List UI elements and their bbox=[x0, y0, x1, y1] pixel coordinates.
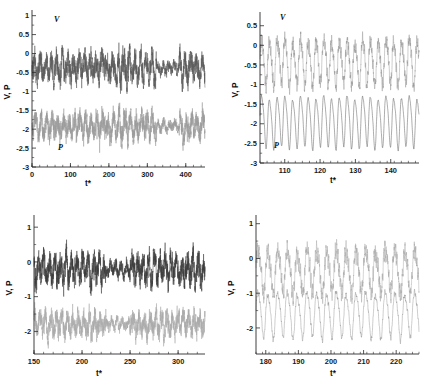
y-tick-label: -2 bbox=[24, 327, 31, 336]
y-tick-label: 1 bbox=[27, 223, 31, 232]
x-tick-label: 140 bbox=[385, 166, 397, 175]
x-tick-label: 130 bbox=[349, 166, 361, 175]
y-tick-label: 1 bbox=[249, 219, 253, 228]
traces-bottom-left bbox=[34, 240, 205, 349]
x-axis-title: t* bbox=[96, 369, 103, 378]
y-tick-label: -0.5 bbox=[16, 68, 29, 77]
y-tick-label: -3 bbox=[22, 163, 29, 172]
x-tick-label: 400 bbox=[180, 170, 192, 179]
y-tick-label: -2.5 bbox=[16, 144, 29, 153]
y-tick-label: 0.5 bbox=[19, 30, 29, 39]
y-tick-label: -2 bbox=[22, 125, 29, 134]
chart-bottom-right: 10-1-2 180190200210220 t* V, P bbox=[212, 193, 424, 385]
curve-label-v: V bbox=[54, 15, 60, 24]
y-tick-label: -3 bbox=[250, 159, 257, 168]
x-tick-label: 210 bbox=[357, 357, 369, 366]
panel-top-right: 0.50-0.5-1-1.5-2-2.5-3 110120130140 t* V… bbox=[212, 0, 424, 193]
figure-root: 10.50-0.5-1-1.5-2-2.5-3 0100200300400 t*… bbox=[0, 0, 424, 385]
traces-bottom-right bbox=[256, 239, 419, 344]
traces-top-right bbox=[260, 32, 419, 151]
trace-v bbox=[260, 32, 419, 95]
traces-top-left bbox=[32, 43, 205, 153]
panel-bottom-left: 10-1-2 150200250300 t* V, P bbox=[0, 193, 212, 385]
curve-label-p: P bbox=[58, 143, 63, 152]
x-tick-label: 120 bbox=[314, 166, 326, 175]
x-tick-label: 150 bbox=[28, 357, 40, 366]
y-axis-title: V, P bbox=[3, 84, 12, 99]
y-tick-label: 0 bbox=[253, 41, 257, 50]
curve-label-v: V bbox=[280, 13, 286, 22]
x-tick-label: 0 bbox=[30, 170, 34, 179]
panel-top-left: 10.50-0.5-1-1.5-2-2.5-3 0100200300400 t*… bbox=[0, 0, 212, 193]
curve-label-p: P bbox=[274, 141, 279, 150]
x-tick-label: 300 bbox=[172, 357, 184, 366]
y-tick-label: -2 bbox=[246, 324, 253, 333]
y-tick-label: -2 bbox=[250, 119, 257, 128]
y-tick-label: -1 bbox=[22, 87, 29, 96]
x-tick-label: 200 bbox=[325, 357, 337, 366]
axes-bottom-right: 10-1-2 180190200210220 bbox=[246, 215, 419, 366]
x-axis-title: t* bbox=[85, 179, 92, 188]
y-tick-label: 0 bbox=[27, 258, 31, 267]
x-tick-label: 300 bbox=[141, 170, 153, 179]
y-tick-label: -0.5 bbox=[244, 61, 257, 70]
x-axis-title: t* bbox=[330, 176, 337, 185]
y-tick-label: 1 bbox=[25, 11, 29, 20]
y-tick-label: -1.5 bbox=[16, 106, 29, 115]
x-tick-label: 220 bbox=[390, 357, 402, 366]
x-tick-label: 110 bbox=[279, 166, 291, 175]
x-tick-label: 190 bbox=[292, 357, 304, 366]
y-tick-label: -1 bbox=[250, 80, 257, 89]
y-tick-label: -1.5 bbox=[244, 100, 257, 109]
y-tick-label: -1 bbox=[246, 289, 253, 298]
y-tick-label: 0.5 bbox=[247, 21, 257, 30]
trace-v bbox=[32, 43, 205, 94]
x-tick-label: 180 bbox=[260, 357, 272, 366]
panel-bottom-right: 10-1-2 180190200210220 t* V, P bbox=[212, 193, 424, 385]
y-tick-label: 0 bbox=[249, 254, 253, 263]
trace-p bbox=[256, 289, 419, 344]
chart-bottom-left: 10-1-2 150200250300 t* V, P bbox=[0, 193, 212, 385]
x-tick-label: 250 bbox=[124, 357, 136, 366]
chart-top-right: 0.50-0.5-1-1.5-2-2.5-3 110120130140 t* V… bbox=[212, 0, 424, 193]
x-tick-label: 200 bbox=[103, 170, 115, 179]
x-tick-label: 100 bbox=[64, 170, 76, 179]
y-axis-title: V, P bbox=[227, 280, 236, 295]
y-tick-label: -1 bbox=[24, 292, 31, 301]
y-tick-label: 0 bbox=[25, 49, 29, 58]
axes-top-left: 10.50-0.5-1-1.5-2-2.5-3 0100200300400 bbox=[16, 10, 205, 179]
y-axis-title: V, P bbox=[231, 82, 240, 97]
axes-bottom-left: 10-1-2 150200250300 bbox=[24, 215, 205, 366]
x-tick-label: 200 bbox=[76, 357, 88, 366]
y-tick-label: -2.5 bbox=[244, 139, 257, 148]
trace-p bbox=[260, 95, 419, 151]
x-axis-title: t* bbox=[330, 369, 337, 378]
trace-p bbox=[34, 302, 205, 348]
trace-v bbox=[34, 240, 205, 297]
y-axis-title: V, P bbox=[5, 280, 14, 295]
chart-top-left: 10.50-0.5-1-1.5-2-2.5-3 0100200300400 t*… bbox=[0, 0, 212, 193]
